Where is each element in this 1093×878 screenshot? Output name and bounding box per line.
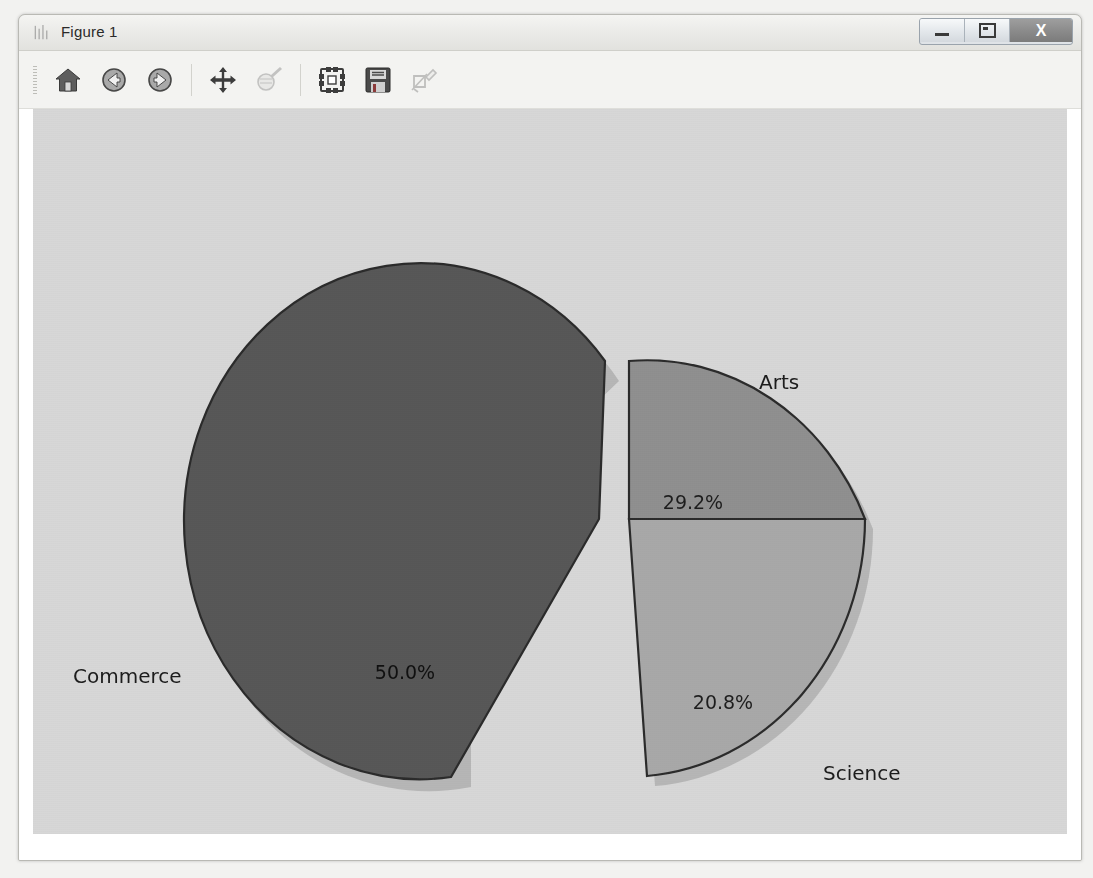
window-controls: X bbox=[919, 18, 1073, 45]
pan-button[interactable] bbox=[202, 59, 244, 101]
edit-axis-icon bbox=[409, 65, 439, 95]
configure-subplots-icon bbox=[317, 65, 347, 95]
back-arrow-icon bbox=[99, 65, 129, 95]
toolbar-separator bbox=[300, 64, 301, 96]
maximize-icon bbox=[979, 23, 996, 38]
home-button[interactable] bbox=[47, 59, 89, 101]
maximize-button[interactable] bbox=[965, 19, 1010, 42]
toolbar-separator bbox=[191, 64, 192, 96]
figure-window: Figure 1 X bbox=[18, 14, 1082, 861]
edit-axis-button[interactable] bbox=[403, 59, 445, 101]
home-icon bbox=[53, 65, 83, 95]
pie-chart: 50.0% 29.2% 20.8% Commerce Arts Science bbox=[33, 109, 1067, 834]
subplots-button[interactable] bbox=[311, 59, 353, 101]
navigation-toolbar bbox=[19, 51, 1081, 109]
matplotlib-icon bbox=[32, 23, 52, 42]
back-button[interactable] bbox=[93, 59, 135, 101]
pie-label-science: Science bbox=[823, 761, 901, 785]
pie-slice-science[interactable] bbox=[629, 519, 865, 776]
figure-canvas-wrapper: 50.0% 29.2% 20.8% Commerce Arts Science bbox=[19, 109, 1081, 860]
close-icon: X bbox=[1036, 23, 1047, 39]
forward-button[interactable] bbox=[139, 59, 181, 101]
pie-pct-science: 20.8% bbox=[693, 691, 753, 713]
pan-move-icon bbox=[208, 65, 238, 95]
pie-slice-commerce[interactable] bbox=[184, 263, 605, 779]
close-button[interactable]: X bbox=[1010, 19, 1072, 42]
pie-pct-arts: 29.2% bbox=[663, 491, 723, 513]
pie-label-arts: Arts bbox=[759, 370, 799, 394]
zoom-button[interactable] bbox=[248, 59, 290, 101]
save-floppy-icon bbox=[363, 65, 393, 95]
pie-label-commerce: Commerce bbox=[73, 664, 182, 688]
pie-pct-commerce: 50.0% bbox=[375, 661, 435, 683]
matplotlib-figure-canvas[interactable]: 50.0% 29.2% 20.8% Commerce Arts Science bbox=[33, 109, 1067, 834]
window-title-bar: Figure 1 X bbox=[19, 15, 1081, 51]
toolbar-grip bbox=[33, 66, 37, 94]
minimize-icon bbox=[935, 33, 949, 36]
zoom-rect-icon bbox=[254, 65, 284, 95]
forward-arrow-icon bbox=[145, 65, 175, 95]
desktop-backdrop: Figure 1 X bbox=[0, 0, 1093, 878]
minimize-button[interactable] bbox=[920, 19, 965, 42]
window-title: Figure 1 bbox=[61, 23, 118, 40]
save-button[interactable] bbox=[357, 59, 399, 101]
